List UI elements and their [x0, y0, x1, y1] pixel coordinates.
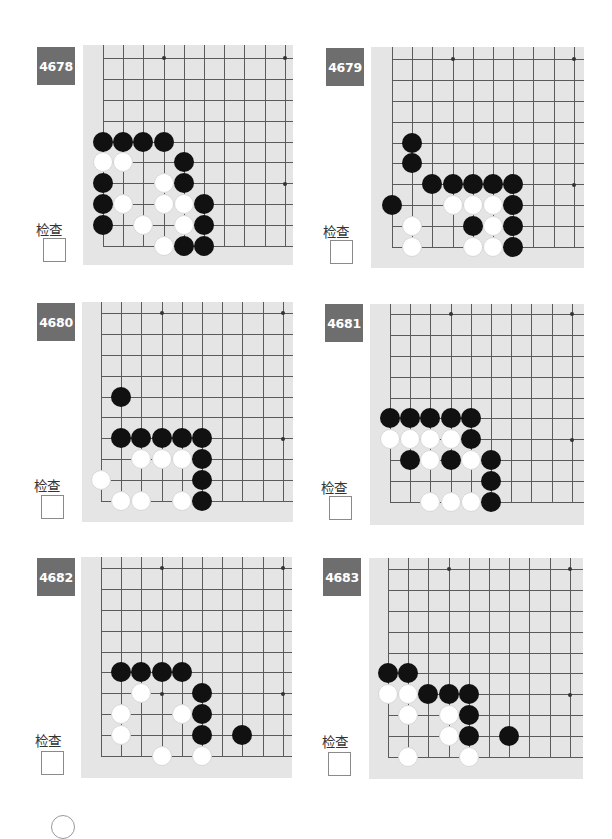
- grid-line-horizontal: [392, 80, 584, 81]
- grid-line-horizontal: [392, 101, 584, 102]
- black-stone: [174, 236, 194, 256]
- white-stone: [420, 450, 440, 470]
- grid-line-vertical: [242, 302, 243, 502]
- grid-line-horizontal: [101, 417, 293, 418]
- grid-line-vertical: [471, 304, 472, 503]
- grid-line-vertical: [533, 47, 534, 248]
- grid-line-vertical: [162, 302, 163, 502]
- black-stone: [461, 408, 481, 428]
- star-point: [568, 693, 572, 697]
- check-label: 检查: [314, 477, 354, 497]
- grid-line-horizontal: [390, 377, 584, 378]
- grid-line-vertical: [390, 304, 391, 503]
- check-checkbox[interactable]: [41, 495, 64, 519]
- grid-line-vertical: [430, 304, 431, 503]
- grid-line-vertical: [392, 47, 393, 248]
- grid-line-vertical: [141, 302, 142, 502]
- black-stone: [194, 194, 214, 214]
- go-board[interactable]: [371, 47, 584, 268]
- grid-line-horizontal: [388, 569, 583, 570]
- black-stone: [402, 133, 422, 153]
- black-stone: [439, 684, 459, 704]
- black-stone: [459, 705, 479, 725]
- black-stone: [194, 236, 214, 256]
- white-stone: [93, 152, 113, 172]
- grid-line-horizontal: [390, 356, 584, 357]
- grid-line-vertical: [570, 558, 571, 758]
- grid-line-vertical: [432, 47, 433, 248]
- black-stone: [174, 152, 194, 172]
- page-number-circle: [51, 815, 75, 839]
- black-stone: [194, 215, 214, 235]
- white-stone: [111, 704, 131, 724]
- star-point: [570, 438, 574, 442]
- grid-line-horizontal: [101, 334, 293, 335]
- black-stone: [463, 174, 483, 194]
- grid-line-vertical: [182, 557, 183, 757]
- problem-number-badge: 4681: [325, 304, 363, 342]
- check-checkbox[interactable]: [41, 751, 64, 775]
- white-stone: [402, 237, 422, 257]
- white-stone: [131, 683, 151, 703]
- check-label: 检查: [316, 221, 356, 241]
- black-stone: [113, 132, 133, 152]
- white-stone: [443, 195, 463, 215]
- white-stone: [172, 704, 192, 724]
- grid-line-vertical: [101, 557, 102, 757]
- black-stone: [152, 428, 172, 448]
- grid-line-horizontal: [388, 611, 583, 612]
- go-board[interactable]: [370, 304, 584, 525]
- grid-line-horizontal: [101, 313, 293, 314]
- black-stone: [503, 195, 523, 215]
- grid-line-vertical: [283, 302, 284, 502]
- black-stone: [111, 428, 131, 448]
- black-stone: [418, 684, 438, 704]
- grid-line-vertical: [244, 45, 245, 247]
- grid-line-vertical: [511, 304, 512, 503]
- white-stone: [398, 705, 418, 725]
- white-stone: [174, 194, 194, 214]
- black-stone: [378, 663, 398, 683]
- grid-line-horizontal: [392, 122, 584, 123]
- black-stone: [398, 663, 418, 683]
- star-point: [449, 312, 453, 316]
- black-stone: [441, 408, 461, 428]
- white-stone: [483, 237, 503, 257]
- check-checkbox[interactable]: [329, 496, 352, 520]
- go-board[interactable]: [83, 45, 293, 265]
- black-stone: [192, 704, 212, 724]
- go-board[interactable]: [369, 558, 583, 779]
- white-stone: [378, 684, 398, 704]
- star-point: [570, 312, 574, 316]
- black-stone: [93, 173, 113, 193]
- black-stone: [481, 471, 501, 491]
- black-stone: [93, 194, 113, 214]
- check-checkbox[interactable]: [328, 752, 351, 776]
- white-stone: [441, 429, 461, 449]
- black-stone: [400, 450, 420, 470]
- white-stone: [113, 194, 133, 214]
- white-stone: [131, 449, 151, 469]
- white-stone: [111, 491, 131, 511]
- grid-line-vertical: [162, 557, 163, 757]
- white-stone: [91, 470, 111, 490]
- grid-line-vertical: [529, 558, 530, 758]
- check-checkbox[interactable]: [43, 238, 66, 262]
- white-stone: [398, 747, 418, 767]
- grid-line-vertical: [451, 304, 452, 503]
- grid-line-horizontal: [101, 652, 292, 653]
- grid-line-vertical: [531, 304, 532, 503]
- check-checkbox[interactable]: [330, 240, 353, 264]
- black-stone: [463, 216, 483, 236]
- go-board[interactable]: [81, 557, 292, 778]
- white-stone: [483, 195, 503, 215]
- grid-line-vertical: [428, 558, 429, 758]
- check-label: 检查: [27, 475, 67, 495]
- black-stone: [503, 237, 523, 257]
- white-stone: [463, 237, 483, 257]
- white-stone: [439, 705, 459, 725]
- go-board[interactable]: [82, 302, 293, 522]
- problem-number-badge: 4679: [326, 48, 364, 86]
- grid-line-vertical: [222, 557, 223, 757]
- black-stone: [192, 725, 212, 745]
